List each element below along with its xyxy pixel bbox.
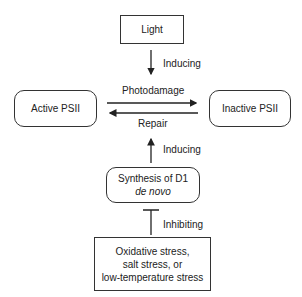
inactive-psii-label: Inactive PSII	[222, 102, 278, 115]
light-box: Light	[120, 15, 184, 44]
stress-line-3: low-temperature stress	[102, 271, 204, 284]
photodamage-label: Photodamage	[122, 85, 184, 96]
synthesis-node: Synthesis of D1 de novo	[106, 167, 200, 203]
stress-box: Oxidative stress, salt stress, or low-te…	[94, 237, 211, 291]
inducing-label-light: Inducing	[163, 58, 201, 69]
synthesis-label: Synthesis of D1	[118, 172, 188, 185]
stress-line-2: salt stress, or	[123, 258, 182, 271]
stress-line-1: Oxidative stress,	[116, 245, 190, 258]
active-psii-label: Active PSII	[31, 102, 80, 115]
de-novo-label: de novo	[135, 185, 171, 198]
inactive-psii-node: Inactive PSII	[209, 90, 291, 127]
psii-repair-diagram: Light Inducing Photodamage Active PSII I…	[0, 0, 302, 297]
repair-label: Repair	[138, 118, 167, 129]
active-psii-node: Active PSII	[14, 90, 97, 127]
light-label: Light	[141, 23, 163, 36]
inducing-label-synthesis: Inducing	[163, 144, 201, 155]
inhibiting-label: Inhibiting	[163, 219, 203, 230]
